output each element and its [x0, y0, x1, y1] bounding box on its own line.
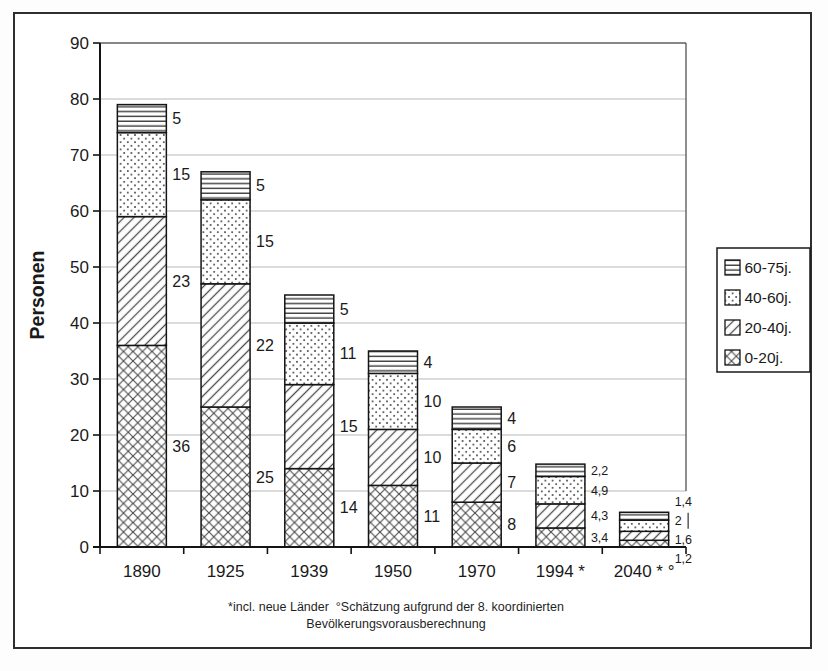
page: 515233651522255111514410101146782,24,94,… — [0, 0, 828, 671]
y-axis-title: Personen — [26, 251, 48, 340]
footnote-line-1: *incl. neue Länder °Schätzung aufgrund d… — [100, 599, 692, 616]
bar-segment-20-40j. — [452, 463, 501, 502]
bar-segment-40-60j. — [536, 476, 585, 503]
bar-segment-0-20j. — [452, 502, 501, 547]
value-label: 5 — [256, 177, 265, 194]
bar-segment-60-75j. — [620, 512, 669, 520]
legend: 60-75j.40-60j.20-40j.0-20j. — [717, 248, 810, 372]
value-label: 14 — [340, 499, 358, 516]
bar-segment-40-60j. — [117, 133, 166, 217]
bar-segment-20-40j. — [369, 429, 418, 485]
y-tick-label: 50 — [70, 258, 89, 277]
stacked-bar-chart: 515233651522255111514410101146782,24,94,… — [0, 0, 828, 671]
bar-segment-60-75j. — [536, 464, 585, 476]
value-label: 6 — [507, 438, 516, 455]
bar-segment-60-75j. — [452, 407, 501, 429]
bar-segment-40-60j. — [452, 429, 501, 463]
bar-segment-20-40j. — [117, 217, 166, 346]
bar-segment-60-75j. — [201, 172, 250, 200]
y-tick-label: 30 — [70, 370, 89, 389]
value-label: 15 — [172, 166, 190, 183]
value-label: 15 — [256, 233, 274, 250]
legend-item: 60-75j. — [725, 259, 792, 276]
bars — [117, 105, 668, 547]
y-tick-label: 0 — [80, 538, 89, 557]
value-label: 2,2 — [591, 464, 608, 478]
value-label: 11 — [340, 345, 357, 362]
y-tick-label: 20 — [70, 426, 89, 445]
value-label: 4,3 — [591, 509, 608, 523]
bar-segment-0-20j. — [285, 469, 334, 547]
x-tick-label: 1939 — [290, 562, 328, 581]
x-tick-label: 1950 — [374, 562, 412, 581]
value-label: 2 — [675, 514, 682, 528]
x-tick-label: 1890 — [123, 562, 161, 581]
bar-segment-60-75j. — [117, 105, 166, 133]
bar-segment-0-20j. — [201, 407, 250, 547]
x-tick-label: 1970 — [458, 562, 496, 581]
value-label: 36 — [172, 438, 190, 455]
bar-segment-40-60j. — [285, 323, 334, 385]
bar-segment-0-20j. — [369, 485, 418, 547]
legend-swatch-hlines — [725, 260, 740, 275]
value-label: 1,4 — [675, 495, 692, 509]
value-label: 7 — [507, 474, 516, 491]
legend-item: 20-40j. — [725, 319, 792, 336]
bar-segment-60-75j. — [369, 351, 418, 373]
bar-segment-40-60j. — [620, 520, 669, 531]
y-tick-label: 40 — [70, 314, 89, 333]
legend-label: 0-20j. — [745, 349, 784, 366]
value-label: 4 — [507, 410, 516, 427]
value-label: 4 — [424, 354, 433, 371]
legend-label: 60-75j. — [745, 259, 792, 276]
bar-segment-0-20j. — [620, 540, 669, 547]
y-tick-label: 70 — [70, 146, 89, 165]
value-label: 5 — [340, 301, 349, 318]
value-label: 23 — [172, 273, 190, 290]
bar-segment-40-60j. — [369, 373, 418, 429]
y-tick-label: 60 — [70, 202, 89, 221]
bar-segment-20-40j. — [285, 385, 334, 469]
value-label: 10 — [424, 449, 442, 466]
value-label: 4,9 — [591, 484, 608, 498]
value-label: 10 — [424, 393, 442, 410]
bar-segment-20-40j. — [620, 531, 669, 540]
footnote-line-2: Bevölkerungsvorausberechnung — [100, 616, 692, 633]
legend-swatch-dots — [725, 290, 740, 305]
bar-segment-0-20j. — [536, 528, 585, 547]
x-tick-label: 1925 — [207, 562, 245, 581]
legend-item: 0-20j. — [725, 349, 783, 366]
value-label: 1,6 — [675, 533, 692, 547]
value-label: 8 — [507, 516, 516, 533]
value-label: 3,4 — [591, 531, 608, 545]
y-tick-label: 10 — [70, 482, 89, 501]
value-label: 11 — [424, 508, 441, 525]
legend-swatch-crosshatch — [725, 350, 740, 365]
bar-segment-0-20j. — [117, 345, 166, 547]
legend-item: 40-60j. — [725, 289, 792, 306]
legend-swatch-diagonal — [725, 320, 740, 335]
bar-segment-60-75j. — [285, 295, 334, 323]
bar-segment-40-60j. — [201, 200, 250, 284]
bar-segment-20-40j. — [201, 284, 250, 407]
x-tick-label: 1994 * — [536, 562, 586, 581]
legend-label: 20-40j. — [745, 319, 792, 336]
value-label: 1,2 — [675, 552, 692, 566]
y-tick-label: 80 — [70, 90, 89, 109]
legend-label: 40-60j. — [745, 289, 792, 306]
x-tick-label: 2040 * ° — [614, 562, 675, 581]
y-tick-label: 90 — [70, 34, 89, 53]
value-label: 22 — [256, 337, 274, 354]
value-label: 5 — [172, 110, 181, 127]
bar-segment-20-40j. — [536, 504, 585, 528]
value-label: 15 — [340, 418, 358, 435]
value-label: 25 — [256, 469, 274, 486]
